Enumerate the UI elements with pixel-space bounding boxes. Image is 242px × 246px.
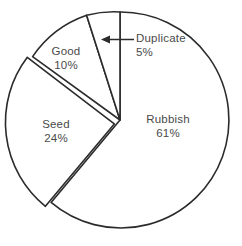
pie-label-rubbish-percent: 61% <box>133 126 203 140</box>
pie-label-good-percent: 10% <box>38 58 94 72</box>
pie-label-seed-name: Seed <box>26 117 86 131</box>
pie-label-seed: Seed 24% <box>26 117 86 145</box>
pie-label-seed-percent: 24% <box>26 131 86 145</box>
pie-label-rubbish: Rubbish 61% <box>133 112 203 140</box>
pie-chart: Rubbish 61% Seed 24% Good 10% Duplicate … <box>0 0 242 246</box>
pie-label-good-name: Good <box>38 44 94 58</box>
pie-label-duplicate-name: Duplicate <box>136 31 216 45</box>
pie-label-rubbish-name: Rubbish <box>133 112 203 126</box>
pie-label-duplicate-percent: 5% <box>136 45 216 59</box>
pie-label-duplicate: Duplicate 5% <box>136 31 216 59</box>
pie-label-good: Good 10% <box>38 44 94 72</box>
